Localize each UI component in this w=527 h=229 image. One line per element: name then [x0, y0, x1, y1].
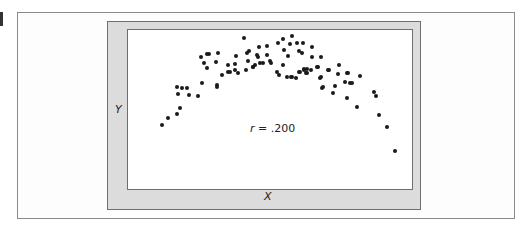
data-point — [247, 49, 251, 53]
data-point — [185, 86, 189, 90]
data-point — [336, 72, 340, 76]
data-point — [310, 55, 314, 59]
data-point — [310, 45, 314, 49]
data-point — [315, 65, 319, 69]
data-point — [207, 52, 211, 56]
data-point — [269, 61, 273, 65]
data-point — [236, 71, 240, 75]
data-point — [281, 37, 285, 41]
data-point — [355, 105, 359, 109]
data-point — [294, 76, 298, 80]
data-point — [265, 44, 269, 48]
data-point — [326, 68, 330, 72]
data-point — [298, 70, 302, 74]
data-point — [226, 63, 230, 67]
data-point — [215, 85, 219, 89]
data-point — [160, 123, 164, 127]
data-point — [290, 34, 294, 38]
data-point — [234, 54, 238, 58]
data-point — [202, 61, 206, 65]
data-point — [300, 51, 304, 55]
data-point — [309, 68, 313, 72]
data-point — [205, 66, 209, 70]
data-point — [281, 63, 285, 67]
data-point — [304, 71, 308, 75]
data-point — [175, 112, 179, 116]
data-point — [393, 149, 397, 153]
data-point — [337, 63, 341, 67]
data-point — [246, 59, 250, 63]
x-axis-label: X — [264, 190, 272, 203]
plot-area — [127, 29, 413, 190]
data-point — [256, 55, 260, 59]
data-point — [253, 63, 257, 67]
data-point — [214, 60, 218, 64]
data-point — [166, 116, 170, 120]
edge-mark — [0, 12, 3, 26]
data-point — [265, 53, 269, 57]
data-point — [288, 42, 292, 46]
data-point — [318, 76, 322, 80]
data-point — [277, 73, 281, 77]
data-point — [233, 62, 237, 66]
correlation-value: = .200 — [255, 122, 296, 135]
data-point — [178, 106, 182, 110]
data-point — [319, 55, 323, 59]
data-point — [343, 80, 347, 84]
data-point — [321, 85, 325, 89]
y-axis-label: Y — [115, 103, 122, 116]
data-point — [331, 91, 335, 95]
data-point — [333, 84, 337, 88]
correlation-annotation: r = .200 — [250, 122, 295, 135]
data-point — [187, 93, 191, 97]
data-point — [228, 70, 232, 74]
data-point — [220, 73, 224, 77]
data-point — [261, 61, 265, 65]
data-point — [377, 113, 381, 117]
data-point — [345, 96, 349, 100]
data-point — [180, 86, 184, 90]
data-point — [199, 55, 203, 59]
data-point — [289, 75, 293, 79]
data-point — [175, 85, 179, 89]
data-point — [350, 81, 354, 85]
data-point — [244, 68, 248, 72]
data-point — [374, 94, 378, 98]
data-point — [200, 81, 204, 85]
data-point — [216, 51, 220, 55]
data-point — [385, 125, 389, 129]
data-point — [196, 94, 200, 98]
data-point — [282, 48, 286, 52]
data-point — [242, 36, 246, 40]
data-point — [286, 54, 290, 58]
data-point — [176, 92, 180, 96]
data-point — [358, 74, 362, 78]
data-point — [295, 41, 299, 45]
data-point — [257, 45, 261, 49]
data-point — [276, 41, 280, 45]
data-point — [345, 71, 349, 75]
data-point — [301, 41, 305, 45]
